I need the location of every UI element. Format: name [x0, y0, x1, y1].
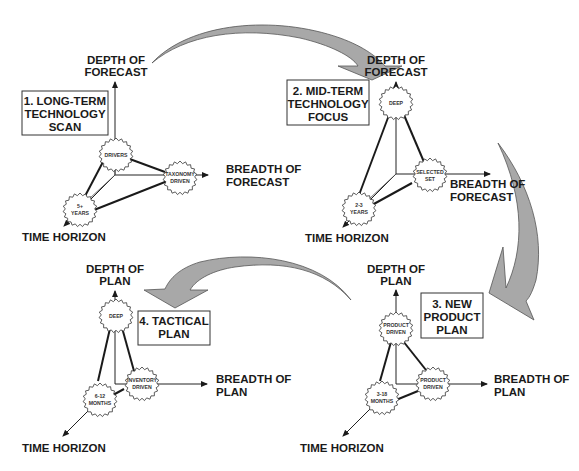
svg-text:2-3: 2-3: [355, 202, 363, 208]
time-axis-label: TIME HORIZON: [300, 442, 384, 454]
flow-arrow-2-to-3: [489, 143, 539, 320]
node-depth: PRODUCT DRIVEN: [379, 312, 413, 346]
node-breadth: TAXONOMY DRIVEN: [163, 161, 197, 195]
svg-text:PRODUCT: PRODUCT: [420, 377, 446, 383]
svg-text:FORECAST: FORECAST: [84, 66, 147, 78]
time-axis: [63, 409, 90, 436]
svg-text:FORECAST: FORECAST: [450, 191, 513, 203]
svg-text:6-12: 6-12: [95, 393, 105, 399]
svg-text:PLAN: PLAN: [380, 275, 411, 287]
svg-text:TECHNOLOGY: TECHNOLOGY: [24, 108, 105, 120]
step-box-4: 4. TACTICAL PLAN: [138, 311, 210, 345]
svg-text:3-18: 3-18: [377, 391, 387, 397]
svg-text:MONTHS: MONTHS: [89, 400, 112, 406]
planning-cycle-diagram: DRIVERS TAXONOMY DRIVEN 5+ YEARS DEPTH O…: [0, 0, 579, 471]
flow-arrow-3-to-4: [144, 257, 351, 308]
svg-text:DEEP: DEEP: [389, 100, 404, 106]
panel-mid-term-technology-focus: DEEP SELECTED SET 2-3 YEARS DEPTH OF FOR…: [287, 54, 525, 244]
time-axis-label: TIME HORIZON: [22, 442, 106, 454]
node-breadth: PRODUCT DRIVEN: [416, 367, 450, 401]
time-axis-label: TIME HORIZON: [22, 231, 106, 243]
depth-axis-label: DEPTH OF: [367, 54, 425, 66]
node-time: 3-18 MONTHS: [365, 381, 399, 415]
svg-text:PLAN: PLAN: [436, 324, 467, 336]
node-depth: DRIVERS: [99, 138, 133, 172]
svg-text:PLAN: PLAN: [494, 386, 525, 398]
breadth-axis-label: BREADTH OF: [226, 163, 301, 175]
svg-text:YEARS: YEARS: [71, 210, 89, 216]
depth-axis-label: DEPTH OF: [87, 54, 145, 66]
breadth-axis-label: BREADTH OF: [450, 178, 525, 190]
svg-text:2. MID-TERM: 2. MID-TERM: [293, 85, 363, 97]
svg-text:SET: SET: [425, 176, 436, 182]
time-axis-label: TIME HORIZON: [305, 232, 389, 244]
svg-text:SCAN: SCAN: [49, 121, 82, 133]
svg-text:DRIVEN: DRIVEN: [132, 384, 152, 390]
svg-text:PRODUCT: PRODUCT: [383, 322, 409, 328]
svg-text:TAXONOMY: TAXONOMY: [165, 171, 195, 177]
svg-text:5+: 5+: [77, 203, 83, 209]
node-depth: DEEP: [379, 86, 413, 120]
node-breadth: SELECTED SET: [413, 158, 447, 192]
svg-text:PLAN: PLAN: [216, 386, 247, 398]
svg-text:DRIVEN: DRIVEN: [423, 384, 443, 390]
depth-axis-label: DEPTH OF: [367, 263, 425, 275]
svg-text:4. TACTICAL: 4. TACTICAL: [139, 315, 208, 327]
svg-text:YEARS: YEARS: [350, 209, 368, 215]
step-box-3: 3. NEW PRODUCT PLAN: [421, 293, 483, 338]
breadth-axis-label: BREADTH OF: [494, 373, 569, 385]
svg-text:DRIVERS: DRIVERS: [104, 152, 128, 158]
svg-text:SELECTED: SELECTED: [416, 169, 444, 175]
node-breadth: INVENTORY DRIVEN: [125, 367, 159, 401]
node-time: 6-12 MONTHS: [83, 383, 117, 417]
svg-text:PLAN: PLAN: [99, 275, 130, 287]
svg-text:DRIVEN: DRIVEN: [170, 178, 190, 184]
svg-text:PRODUCT: PRODUCT: [424, 311, 481, 323]
svg-text:MONTHS: MONTHS: [371, 398, 394, 404]
svg-text:PLAN: PLAN: [158, 328, 189, 340]
panel-long-term-technology-scan: DRIVERS TAXONOMY DRIVEN 5+ YEARS DEPTH O…: [22, 54, 301, 243]
svg-text:DRIVEN: DRIVEN: [386, 329, 406, 335]
step-box-1: 1. LONG-TERM TECHNOLOGY SCAN: [22, 91, 108, 135]
svg-text:FORECAST: FORECAST: [226, 176, 289, 188]
svg-text:INVENTORY: INVENTORY: [127, 377, 158, 383]
svg-text:3. NEW: 3. NEW: [432, 298, 472, 310]
node-depth: DEEP: [99, 299, 133, 333]
svg-text:1. LONG-TERM: 1. LONG-TERM: [24, 95, 106, 107]
step-box-2: 2. MID-TERM TECHNOLOGY FOCUS: [287, 80, 369, 125]
svg-text:FOCUS: FOCUS: [308, 111, 349, 123]
svg-text:FORECAST: FORECAST: [364, 66, 427, 78]
svg-text:TECHNOLOGY: TECHNOLOGY: [287, 98, 368, 110]
depth-axis-label: DEPTH OF: [86, 263, 144, 275]
breadth-axis-label: BREADTH OF: [216, 373, 291, 385]
svg-text:DEEP: DEEP: [109, 313, 124, 319]
time-axis: [343, 408, 371, 436]
